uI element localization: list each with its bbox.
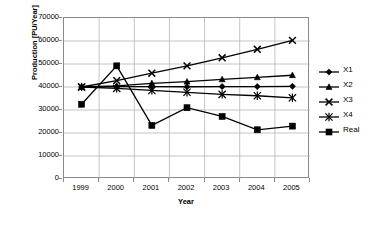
y-tick-mark	[59, 155, 62, 156]
legend-item-x1[interactable]: X1	[318, 62, 384, 77]
y-tick-label: 0	[19, 174, 59, 182]
x-tick-mark	[63, 178, 64, 182]
x-tick-mark	[309, 178, 310, 182]
legend-marker-asterisk-icon	[318, 109, 340, 121]
legend-item-x2[interactable]: X2	[318, 77, 384, 92]
x-axis-title: Year	[63, 197, 309, 206]
y-tick-label: 40000	[19, 82, 59, 90]
legend-label: Real	[343, 125, 359, 134]
x-tick-mark	[274, 178, 275, 182]
legend-marker-x-icon	[318, 94, 340, 106]
y-tick-label: 20000	[19, 128, 59, 136]
chart-container: Production [PU/Year] 0100002000030000400…	[0, 0, 388, 233]
plot-area	[63, 17, 309, 178]
series-layer	[64, 18, 310, 179]
legend-label: X1	[343, 65, 353, 74]
legend-label: X3	[343, 95, 353, 104]
y-tick-mark	[59, 17, 62, 18]
y-tick-mark	[59, 109, 62, 110]
x-tick-mark	[239, 178, 240, 182]
x-tick-label: 2002	[166, 184, 206, 192]
legend-item-real[interactable]: Real	[318, 122, 384, 137]
y-tick-mark	[59, 86, 62, 87]
legend-label: X4	[343, 110, 353, 119]
legend-item-x3[interactable]: X3	[318, 92, 384, 107]
y-tick-mark	[59, 132, 62, 133]
y-tick-label: 70000	[19, 13, 59, 21]
x-tick-mark	[204, 178, 205, 182]
y-tick-mark	[59, 178, 62, 179]
y-tick-label: 60000	[19, 36, 59, 44]
legend-marker-diamond-icon	[318, 64, 340, 76]
y-tick-label: 30000	[19, 105, 59, 113]
chart-legend: X1X2X3X4Real	[318, 62, 384, 137]
x-tick-label: 2005	[271, 184, 311, 192]
x-tick-mark	[133, 178, 134, 182]
legend-marker-triangle-icon	[318, 79, 340, 91]
x-tick-label: 2001	[131, 184, 171, 192]
legend-marker-square-icon	[318, 124, 340, 136]
y-axis-ticks: 010000200003000040000500006000070000	[14, 17, 59, 178]
y-tick-label: 10000	[19, 151, 59, 159]
x-tick-mark	[168, 178, 169, 182]
y-tick-mark	[59, 63, 62, 64]
x-tick-label: 2003	[201, 184, 241, 192]
series-line-real	[82, 66, 293, 130]
x-tick-label: 1999	[61, 184, 101, 192]
x-tick-label: 2004	[236, 184, 276, 192]
legend-item-x4[interactable]: X4	[318, 107, 384, 122]
legend-label: X2	[343, 80, 353, 89]
y-tick-mark	[59, 40, 62, 41]
x-tick-label: 2000	[96, 184, 136, 192]
x-tick-mark	[98, 178, 99, 182]
y-tick-label: 50000	[19, 59, 59, 67]
